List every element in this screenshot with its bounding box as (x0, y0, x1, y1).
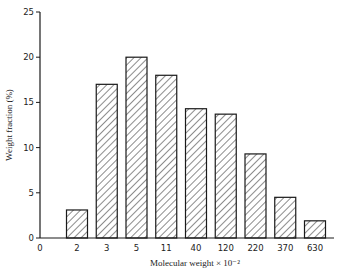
x-tick-label: 2 (74, 243, 79, 253)
bar-chart: 0510152025 Weight fraction (%) 0 2351140… (0, 0, 340, 272)
bars (67, 57, 326, 238)
x-tick-label: 3 (104, 243, 109, 253)
x-axis: 0 2351140120220370630 Molecular weight ×… (37, 238, 334, 268)
bar-630 (305, 221, 326, 238)
y-tick-label: 5 (29, 188, 34, 198)
x-tick-label: 40 (191, 243, 202, 253)
bar-370 (275, 197, 296, 238)
y-ticks: 0510152025 (23, 7, 40, 243)
y-tick-label: 20 (23, 52, 34, 62)
bar-220 (245, 154, 266, 238)
x-tick-label: 370 (277, 243, 293, 253)
y-tick-label: 10 (23, 143, 34, 153)
x-tick-label: 11 (161, 243, 172, 253)
x-axis-title: Molecular weight × 10⁻² (150, 258, 240, 268)
x-tick-label: 630 (307, 243, 323, 253)
bar-40 (186, 109, 207, 238)
x-origin-label: 0 (37, 243, 42, 253)
y-tick-label: 15 (23, 97, 34, 107)
x-tick-label: 120 (218, 243, 234, 253)
y-tick-label: 25 (23, 7, 34, 17)
x-tick-label: 5 (134, 243, 139, 253)
y-axis: 0510152025 Weight fraction (%) (4, 7, 40, 243)
bar-5 (126, 57, 147, 238)
bar-11 (156, 75, 177, 238)
y-axis-title: Weight fraction (%) (4, 89, 14, 161)
x-tick-labels: 2351140120220370630 (74, 243, 323, 253)
bar-120 (215, 114, 236, 238)
bar-3 (96, 84, 117, 238)
x-tick-label: 220 (247, 243, 263, 253)
y-tick-label: 0 (29, 233, 34, 243)
bar-2 (67, 210, 88, 238)
